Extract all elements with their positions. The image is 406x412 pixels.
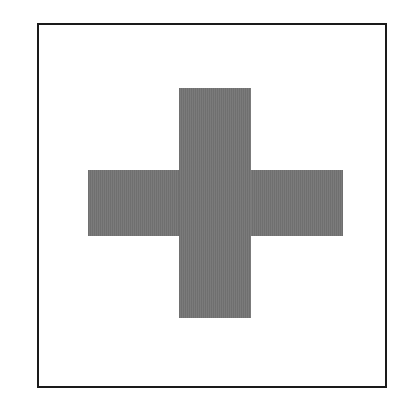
cross-vertical-bar (179, 88, 251, 318)
figure-frame: Cross (37, 23, 387, 388)
figure-label: Cross (39, 25, 40, 26)
